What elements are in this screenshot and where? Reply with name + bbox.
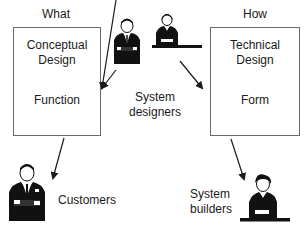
system-builders-label-line2: builders [190,202,232,217]
system-designers-label-line1: System [130,90,180,105]
customers-label: Customers [58,193,116,208]
arrow-technical-to-builders [231,139,244,179]
arrow-conceptual-to-customers [53,138,64,178]
arrow-designers-to-conceptual [102,0,116,88]
person-at-desk-icon [152,14,202,48]
businessman-arms-crossed-icon [9,164,45,221]
businessman-arms-crossed-icon [114,19,140,65]
system-builders-label-line1: System [190,187,230,202]
person-at-desk-icon [240,174,290,221]
system-designers-label-line2: designers [125,105,185,120]
arrow-designers-to-technical [180,61,202,88]
